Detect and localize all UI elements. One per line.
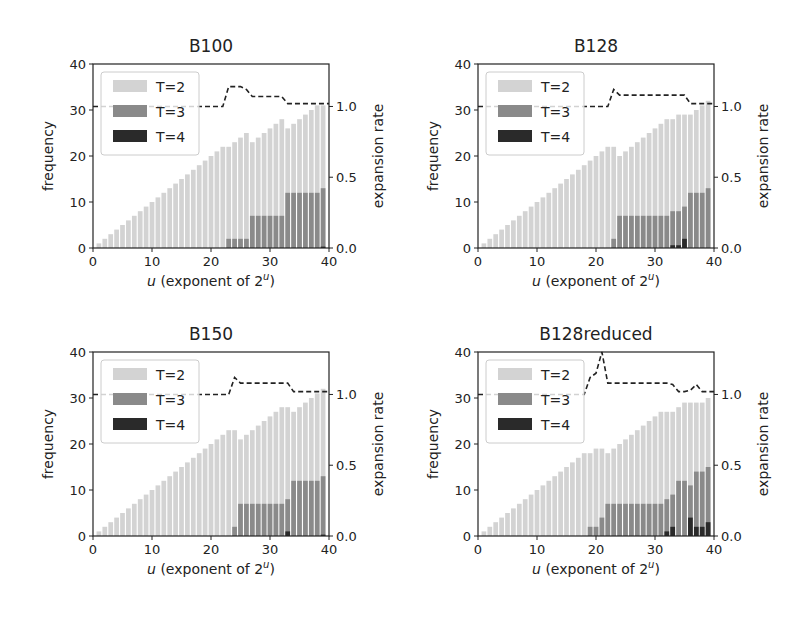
y-tick-label: 0 bbox=[463, 529, 471, 544]
bar-T2 bbox=[97, 531, 102, 536]
bar-T4 bbox=[700, 527, 705, 536]
bar-T3 bbox=[659, 504, 664, 536]
bar-T2 bbox=[600, 151, 605, 248]
bar-T3 bbox=[688, 193, 693, 248]
bar-T3 bbox=[682, 481, 687, 536]
bar-T3 bbox=[605, 504, 610, 536]
legend-swatch-t3 bbox=[113, 393, 147, 405]
panel-b150: B150 0102030400102030400.00.51.0u (expon… bbox=[0, 288, 404, 627]
bar-T2 bbox=[120, 513, 125, 536]
legend-label: T=2 bbox=[155, 79, 185, 95]
legend-swatch-t3 bbox=[498, 393, 532, 405]
bar-T3 bbox=[232, 527, 237, 536]
bar-T2 bbox=[582, 453, 587, 536]
bar-T2 bbox=[529, 207, 534, 248]
x-axis-label: u (exponent of 2u) bbox=[147, 271, 275, 289]
bar-T2 bbox=[102, 527, 107, 536]
bar-T2 bbox=[499, 518, 504, 536]
bar-T3 bbox=[274, 216, 279, 248]
bar-T2 bbox=[215, 151, 220, 248]
bar-T2 bbox=[570, 462, 575, 536]
y-tick-label: 30 bbox=[454, 391, 471, 406]
bar-T2 bbox=[108, 522, 113, 536]
bar-T3 bbox=[315, 481, 320, 536]
x-tick-label: 10 bbox=[529, 542, 546, 557]
bar-T3 bbox=[641, 216, 646, 248]
bar-T4 bbox=[664, 531, 669, 536]
bar-T2 bbox=[108, 234, 113, 248]
bar-T3 bbox=[653, 216, 658, 248]
bar-T3 bbox=[279, 216, 284, 248]
bar-T3 bbox=[256, 216, 261, 248]
bar-T4 bbox=[670, 527, 675, 536]
bar-T4 bbox=[688, 518, 693, 536]
bar-T3 bbox=[611, 504, 616, 536]
chart-title: B128reduced bbox=[478, 324, 714, 344]
bar-T2 bbox=[209, 156, 214, 248]
bar-T3 bbox=[256, 504, 261, 536]
bar-T2 bbox=[161, 481, 166, 536]
bar-T2 bbox=[238, 138, 243, 248]
y2-tick-label: 1.0 bbox=[336, 387, 357, 402]
x-tick-label: 20 bbox=[588, 254, 605, 269]
x-tick-label: 30 bbox=[262, 254, 279, 269]
legend-label: T=2 bbox=[155, 367, 185, 383]
legend-label: T=4 bbox=[155, 129, 185, 145]
bar-T3 bbox=[291, 481, 296, 536]
x-tick-label: 30 bbox=[262, 542, 279, 557]
x-axis-label: u (exponent of 2u) bbox=[532, 271, 660, 289]
legend-swatch-t2 bbox=[113, 80, 147, 92]
bar-T2 bbox=[552, 188, 557, 248]
bar-T2 bbox=[226, 147, 231, 248]
bar-T2 bbox=[517, 216, 522, 248]
bar-T3 bbox=[635, 504, 640, 536]
y-tick-label: 40 bbox=[69, 57, 86, 72]
legend-swatch-t2 bbox=[113, 368, 147, 380]
bar-T2 bbox=[185, 174, 190, 248]
bar-T3 bbox=[694, 472, 699, 536]
bar-T3 bbox=[309, 481, 314, 536]
bar-T3 bbox=[250, 504, 255, 536]
bar-T2 bbox=[156, 197, 161, 248]
x-tick-label: 40 bbox=[706, 542, 723, 557]
bar-T2 bbox=[203, 161, 208, 248]
x-axis-label: u (exponent of 2u) bbox=[147, 559, 275, 577]
bar-T3 bbox=[321, 188, 326, 248]
bar-T3 bbox=[268, 216, 273, 248]
legend-label: T=3 bbox=[155, 392, 185, 408]
bar-T3 bbox=[664, 216, 669, 248]
bar-T2 bbox=[226, 430, 231, 536]
x-tick-label: 20 bbox=[588, 542, 605, 557]
x-tick-label: 40 bbox=[321, 542, 338, 557]
x-tick-label: 10 bbox=[529, 254, 546, 269]
bar-T2 bbox=[541, 197, 546, 248]
bar-T2 bbox=[493, 234, 498, 248]
bar-T3 bbox=[268, 504, 273, 536]
y-tick-label: 40 bbox=[454, 345, 471, 360]
bar-T2 bbox=[120, 225, 125, 248]
y-tick-label: 10 bbox=[454, 195, 471, 210]
bar-T2 bbox=[529, 495, 534, 536]
bar-T3 bbox=[676, 211, 681, 248]
bar-T2 bbox=[511, 220, 516, 248]
bar-T3 bbox=[635, 216, 640, 248]
y2-tick-label: 0.5 bbox=[721, 458, 742, 473]
legend-swatch-t4 bbox=[498, 130, 532, 142]
bar-T2 bbox=[138, 499, 143, 536]
bar-T3 bbox=[623, 216, 628, 248]
x-tick-label: 30 bbox=[647, 542, 664, 557]
bar-T4 bbox=[706, 522, 711, 536]
legend-swatch-t2 bbox=[498, 368, 532, 380]
bar-T2 bbox=[102, 239, 107, 248]
chart-title: B128 bbox=[478, 36, 714, 56]
bar-T3 bbox=[611, 239, 616, 248]
y2-tick-label: 0.0 bbox=[336, 529, 357, 544]
bar-T3 bbox=[244, 239, 249, 248]
bar-T3 bbox=[285, 193, 290, 248]
bar-T3 bbox=[676, 481, 681, 536]
legend-swatch-t4 bbox=[498, 418, 532, 430]
y-tick-label: 40 bbox=[454, 57, 471, 72]
bar-T3 bbox=[262, 216, 267, 248]
legend-label: T=3 bbox=[540, 104, 570, 120]
bar-T2 bbox=[220, 435, 225, 536]
